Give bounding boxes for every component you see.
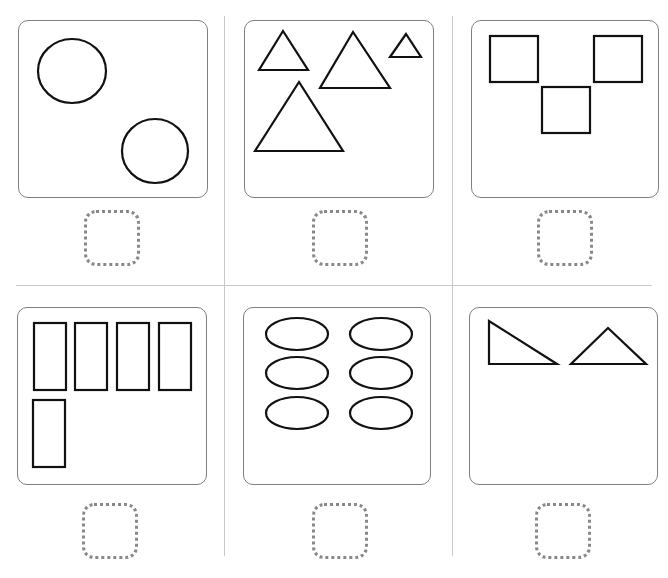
answer-box-1[interactable] bbox=[84, 210, 140, 266]
circle-shape bbox=[122, 119, 188, 183]
squares-illustration bbox=[472, 21, 660, 199]
row-divider bbox=[16, 285, 652, 286]
square-shape bbox=[594, 36, 642, 82]
shape-card-triangles bbox=[244, 20, 434, 198]
answer-box-2[interactable] bbox=[312, 210, 368, 266]
answer-box-3[interactable] bbox=[537, 210, 593, 266]
ellipse-shape bbox=[266, 318, 328, 350]
answer-box-5[interactable] bbox=[312, 503, 368, 559]
triangle-shape bbox=[259, 31, 308, 70]
triangles-2-illustration bbox=[470, 308, 659, 486]
shape-card-triangles-2 bbox=[469, 307, 658, 485]
circles-illustration bbox=[19, 21, 209, 199]
column-divider-2 bbox=[452, 16, 453, 556]
triangle-shape bbox=[255, 82, 343, 151]
shape-card-circles bbox=[18, 20, 208, 198]
square-shape bbox=[490, 36, 538, 82]
shape-card-rectangles bbox=[17, 307, 207, 485]
ellipses-illustration bbox=[244, 308, 432, 486]
column-divider-1 bbox=[224, 16, 225, 556]
circle-shape bbox=[38, 39, 106, 103]
triangle-shape bbox=[390, 34, 421, 57]
rectangle-shape bbox=[34, 323, 66, 390]
rectangle-shape bbox=[33, 400, 65, 467]
ellipse-shape bbox=[266, 397, 328, 429]
shape-card-squares bbox=[471, 20, 659, 198]
rectangle-shape bbox=[75, 323, 107, 390]
triangle-shape bbox=[320, 32, 390, 88]
triangle-shape bbox=[571, 328, 646, 364]
rectangle-shape bbox=[159, 323, 191, 390]
rectangle-shape bbox=[117, 323, 149, 390]
answer-box-6[interactable] bbox=[535, 503, 591, 559]
ellipse-shape bbox=[266, 357, 328, 389]
ellipse-shape bbox=[350, 357, 412, 389]
answer-box-4[interactable] bbox=[82, 503, 138, 559]
shape-card-ellipses bbox=[243, 307, 431, 485]
triangles-illustration bbox=[245, 21, 435, 199]
right-triangle-shape bbox=[489, 321, 557, 364]
square-shape bbox=[542, 87, 590, 133]
ellipse-shape bbox=[350, 318, 412, 350]
rectangles-illustration bbox=[18, 308, 208, 486]
ellipse-shape bbox=[350, 397, 412, 429]
